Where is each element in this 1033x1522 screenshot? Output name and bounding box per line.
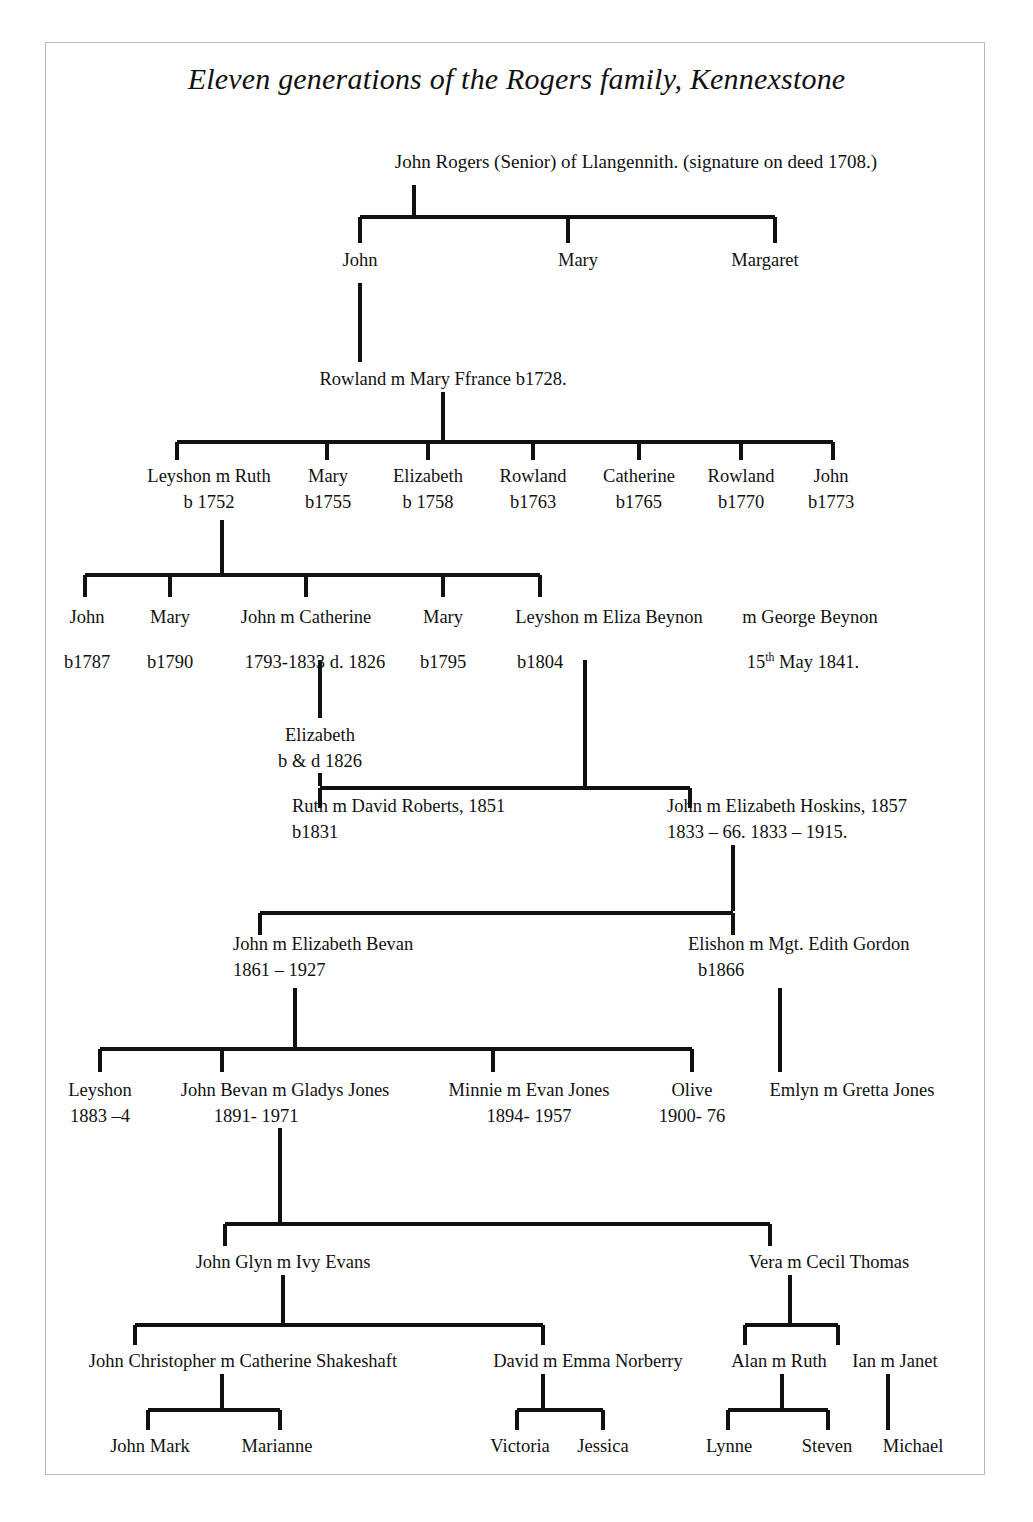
ordinal-suffix: th bbox=[765, 650, 774, 664]
person-name: Elizabeth bbox=[393, 464, 463, 488]
person-name: Rowland m Mary Ffrance b1728. bbox=[319, 367, 566, 391]
person-rowland-1763: Rowland b1763 bbox=[500, 464, 567, 514]
person-name: John Christopher m Catherine Shakeshaft bbox=[89, 1349, 397, 1373]
person-name: Leyshon bbox=[68, 1078, 132, 1102]
person-leyshon-1883: Leyshon 1883 –4 bbox=[68, 1078, 132, 1128]
person-name: Elizabeth bbox=[278, 723, 362, 747]
person-name: John Glyn m Ivy Evans bbox=[196, 1250, 371, 1274]
person-name: Mary bbox=[305, 464, 351, 488]
marriage-date-day: 15 bbox=[747, 652, 766, 672]
person-catherine-1765: Catherine b1765 bbox=[603, 464, 675, 514]
person-dates: b1770 bbox=[708, 490, 775, 514]
person-name: Minnie m Evan Jones bbox=[449, 1078, 610, 1102]
person-dates: b1763 bbox=[500, 490, 567, 514]
person-john-glyn-ivy-evans: John Glyn m Ivy Evans bbox=[196, 1250, 371, 1274]
person-name: Jessica bbox=[577, 1434, 628, 1458]
person-emlyn-gretta-jones: Emlyn m Gretta Jones bbox=[770, 1078, 935, 1102]
person-name: m George Beynon bbox=[742, 605, 877, 629]
person-rowland-1770: Rowland b1770 bbox=[708, 464, 775, 514]
person-dates: b1787 bbox=[64, 650, 110, 674]
person-lynne: Lynne bbox=[706, 1434, 752, 1458]
person-dates: b1790 bbox=[147, 650, 193, 674]
person-name: John bbox=[343, 248, 378, 272]
person-george-beynon-name: m George Beynon bbox=[742, 605, 877, 629]
person-name: Steven bbox=[802, 1434, 852, 1458]
person-name: Mary bbox=[423, 605, 463, 629]
person-name: John Mark bbox=[110, 1434, 190, 1458]
person-name: Leyshon m Eliza Beynon bbox=[515, 605, 703, 629]
person-name: John bbox=[808, 464, 854, 488]
person-name: Ian m Janet bbox=[852, 1349, 937, 1373]
person-dates: b & d 1826 bbox=[278, 749, 362, 773]
person-dates: 1833 – 66. 1833 – 1915. bbox=[667, 820, 907, 844]
person-elishon-edith-gordon: Elishon m Mgt. Edith Gordon b1866 bbox=[688, 932, 910, 982]
person-name: Michael bbox=[883, 1434, 944, 1458]
person-john-catherine-name: John m Catherine bbox=[241, 605, 372, 629]
person-elizabeth-1758: Elizabeth b 1758 bbox=[393, 464, 463, 514]
person-john-christopher-catherine: John Christopher m Catherine Shakeshaft bbox=[89, 1349, 397, 1373]
person-margaret-g2: Margaret bbox=[731, 248, 798, 272]
person-jessica: Jessica bbox=[577, 1434, 628, 1458]
person-john-elizabeth-bevan: John m Elizabeth Bevan 1861 – 1927 bbox=[233, 932, 413, 982]
person-elizabeth-b-d-1826: Elizabeth b & d 1826 bbox=[278, 723, 362, 773]
person-name: Rowland bbox=[708, 464, 775, 488]
person-name: John bbox=[70, 605, 105, 629]
person-name: Margaret bbox=[731, 248, 798, 272]
person-george-beynon-dates: 15th May 1841. bbox=[747, 650, 860, 674]
person-steven: Steven bbox=[802, 1434, 852, 1458]
person-dates: b1866 bbox=[688, 958, 910, 982]
person-name: John m Catherine bbox=[241, 605, 372, 629]
person-name: Rowland bbox=[500, 464, 567, 488]
person-dates: 1883 –4 bbox=[68, 1104, 132, 1128]
person-name: Vera m Cecil Thomas bbox=[749, 1250, 909, 1274]
person-name: John m Elizabeth Bevan bbox=[233, 932, 413, 956]
person-rowland-mary-ffrance: Rowland m Mary Ffrance b1728. bbox=[319, 367, 566, 391]
person-mary-1755: Mary b1755 bbox=[305, 464, 351, 514]
person-mary-1790-name: Mary bbox=[150, 605, 190, 629]
person-name: John m Elizabeth Hoskins, 1857 bbox=[667, 794, 907, 818]
person-john-1787-dates: b1787 bbox=[64, 650, 110, 674]
person-mary-1795-dates: b1795 bbox=[420, 650, 466, 674]
person-dates: b1765 bbox=[603, 490, 675, 514]
person-john-catherine-dates: 1793-1833 d. 1826 bbox=[245, 650, 385, 674]
person-dates: b1755 bbox=[305, 490, 351, 514]
person-david-emma-norberry: David m Emma Norberry bbox=[493, 1349, 683, 1373]
person-dates: b1795 bbox=[420, 650, 466, 674]
person-leyshon-ruth: Leyshon m Ruth b 1752 bbox=[147, 464, 270, 514]
person-victoria: Victoria bbox=[490, 1434, 550, 1458]
person-name: Marianne bbox=[242, 1434, 313, 1458]
person-john-g2: John bbox=[343, 248, 378, 272]
person-michael: Michael bbox=[883, 1434, 944, 1458]
person-vera-cecil-thomas: Vera m Cecil Thomas bbox=[749, 1250, 909, 1274]
person-leyshon-eliza-dates: b1804 bbox=[517, 650, 563, 674]
person-john-1773: John b1773 bbox=[808, 464, 854, 514]
person-minnie-evan-jones: Minnie m Evan Jones 1894- 1957 bbox=[449, 1078, 610, 1128]
person-john-1787-name: John bbox=[70, 605, 105, 629]
person-name: Olive bbox=[659, 1078, 725, 1102]
person-dates: b 1758 bbox=[393, 490, 463, 514]
person-john-bevan-gladys-jones: John Bevan m Gladys Jones 1891- 1971 bbox=[181, 1078, 390, 1128]
person-marianne: Marianne bbox=[242, 1434, 313, 1458]
person-dates: b1773 bbox=[808, 490, 854, 514]
person-dates: 1900- 76 bbox=[659, 1104, 725, 1128]
person-name: Mary bbox=[150, 605, 190, 629]
person-dates-composite: 15th May 1841. bbox=[747, 650, 860, 674]
person-name: David m Emma Norberry bbox=[493, 1349, 683, 1373]
person-dates: 1891- 1971 bbox=[181, 1104, 390, 1128]
person-name: Mary bbox=[558, 248, 598, 272]
person-dates: b 1752 bbox=[147, 490, 270, 514]
person-name: John Bevan m Gladys Jones bbox=[181, 1078, 390, 1102]
person-ian-janet: Ian m Janet bbox=[852, 1349, 937, 1373]
person-mary-1790-dates: b1790 bbox=[147, 650, 193, 674]
person-mary-1795-name: Mary bbox=[423, 605, 463, 629]
family-tree-page: Eleven generations of the Rogers family,… bbox=[0, 0, 1033, 1522]
person-alan-ruth: Alan m Ruth bbox=[731, 1349, 827, 1373]
person-name: Elishon m Mgt. Edith Gordon bbox=[688, 932, 910, 956]
person-olive-1900: Olive 1900- 76 bbox=[659, 1078, 725, 1128]
person-name: Lynne bbox=[706, 1434, 752, 1458]
person-name: John Rogers (Senior) of Llangennith. (si… bbox=[395, 150, 877, 175]
person-name: Catherine bbox=[603, 464, 675, 488]
person-name: Emlyn m Gretta Jones bbox=[770, 1078, 935, 1102]
person-dates: b1831 bbox=[292, 820, 505, 844]
person-leyshon-eliza-name: Leyshon m Eliza Beynon bbox=[515, 605, 703, 629]
